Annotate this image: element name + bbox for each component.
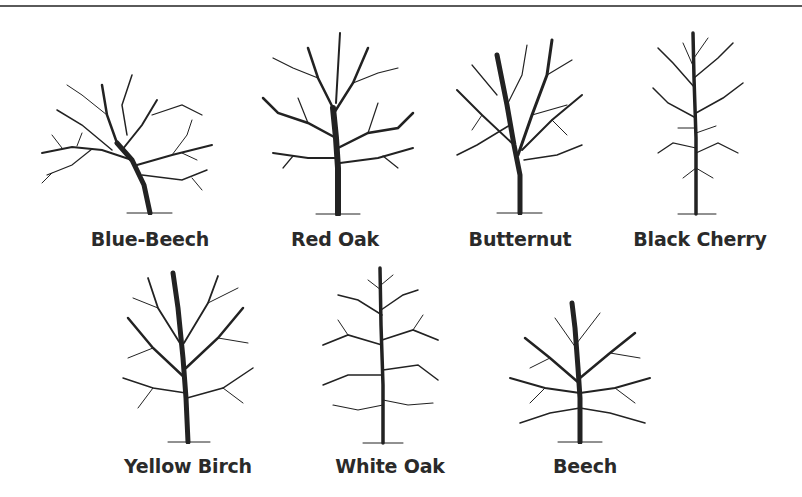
butternut-tree-illustration: [452, 35, 587, 215]
tree-label-blue-beech: Blue-Beech: [91, 228, 209, 250]
beech-tree-illustration: [500, 298, 660, 444]
white-oak-tree-illustration: [318, 265, 443, 445]
tree-label-red-oak: Red Oak: [291, 228, 379, 250]
tree-label-yellow-birch: Yellow Birch: [124, 455, 252, 477]
blue-beech-tree-illustration: [32, 65, 217, 215]
yellow-birch-tree-illustration: [118, 268, 258, 444]
top-rule: [0, 5, 802, 7]
red-oak-tree-illustration: [258, 28, 418, 216]
tree-label-butternut: Butternut: [469, 228, 572, 250]
black-cherry-tree-illustration: [648, 28, 748, 216]
tree-label-white-oak: White Oak: [335, 455, 444, 477]
tree-label-beech: Beech: [553, 455, 617, 477]
tree-label-black-cherry: Black Cherry: [633, 228, 766, 250]
